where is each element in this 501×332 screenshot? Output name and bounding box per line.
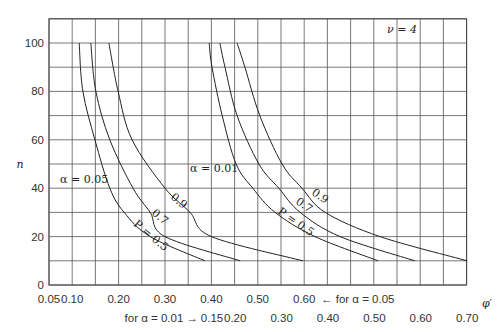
y-tick-label: 20 bbox=[31, 231, 44, 243]
nu-annotation: ν = 4 bbox=[387, 23, 417, 36]
x-tick-label-alpha-001: 0.30 bbox=[270, 312, 292, 324]
curve--0-05-p-0-7 bbox=[91, 43, 240, 261]
y-tick-label: 80 bbox=[31, 85, 44, 97]
x-tick-label-alpha-001: 0.15 bbox=[201, 312, 223, 324]
annotations: ν = 4α = 0.05α = 0.01P = 0.50.70.9P = 0.… bbox=[60, 23, 417, 254]
x-scale-label-alpha-005: ← for α = 0.05 bbox=[321, 293, 394, 305]
x-tick-label-alpha-005: 0.50 bbox=[247, 293, 269, 305]
y-axis-label: n bbox=[16, 158, 23, 171]
y-axis: 020406080100n bbox=[16, 37, 44, 291]
y-tick-label: 100 bbox=[25, 37, 44, 49]
power-curve-chart: 020406080100n 0.050.100.200.300.400.500.… bbox=[0, 0, 501, 332]
x-axis-label: φ′ bbox=[482, 297, 493, 310]
curve-label-a005-p07: 0.7 bbox=[149, 206, 171, 227]
x-tick-label-alpha-005: 0.05 bbox=[38, 293, 60, 305]
x-tick-label-alpha-005: 0.40 bbox=[200, 293, 222, 305]
x-scale-label-alpha-001: for α = 0.01 → bbox=[125, 312, 198, 324]
x-tick-label-alpha-005: 0.10 bbox=[61, 293, 83, 305]
alpha-001-label: α = 0.01 bbox=[190, 162, 238, 175]
curve--0-01-p-0-7 bbox=[220, 43, 415, 261]
curve--0-01-p-0-9 bbox=[237, 43, 467, 261]
x-tick-label-alpha-001: 0.20 bbox=[224, 312, 246, 324]
x-tick-label-alpha-001: 0.40 bbox=[317, 312, 339, 324]
x-tick-label-alpha-001: 0.50 bbox=[363, 312, 385, 324]
alpha-005-label: α = 0.05 bbox=[60, 173, 108, 186]
x-tick-label-alpha-005: 0.60 bbox=[293, 293, 315, 305]
x-axis: 0.050.100.200.300.400.500.60← for α = 0.… bbox=[38, 293, 493, 324]
x-tick-label-alpha-005: 0.20 bbox=[107, 293, 129, 305]
y-tick-label: 60 bbox=[31, 134, 44, 146]
x-tick-label-alpha-001: 0.70 bbox=[456, 312, 478, 324]
y-tick-label: 40 bbox=[31, 182, 44, 194]
y-tick-label: 0 bbox=[38, 279, 44, 291]
x-tick-label-alpha-005: 0.30 bbox=[154, 293, 176, 305]
x-tick-label-alpha-001: 0.60 bbox=[410, 312, 432, 324]
